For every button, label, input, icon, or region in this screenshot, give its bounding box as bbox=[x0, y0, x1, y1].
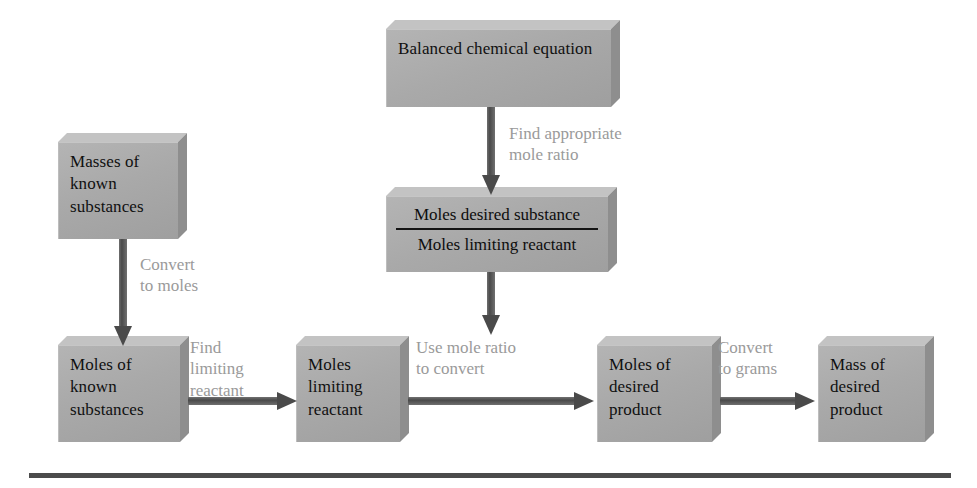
node-balanced-equation-label: Balanced chemical equation bbox=[386, 29, 611, 60]
box-bevel-right bbox=[178, 133, 187, 239]
mole-ratio-fraction: Moles desired substance Moles limiting r… bbox=[386, 196, 608, 256]
node-moles-known: Moles of known substances bbox=[58, 345, 180, 442]
node-masses-known-label: Masses of known substances bbox=[58, 142, 178, 218]
box-bevel-top bbox=[386, 20, 620, 29]
mole-ratio-denominator: Moles limiting reactant bbox=[386, 234, 608, 255]
connector-label-use-mole-ratio: Use mole ratio to convert bbox=[416, 337, 516, 380]
arrow-limiting-to-desired bbox=[408, 391, 595, 411]
mole-ratio-numerator: Moles desired substance bbox=[386, 204, 608, 228]
box-bevel-right bbox=[180, 336, 189, 442]
node-moles-desired-label: Moles of desired product bbox=[597, 345, 712, 421]
node-moles-limiting: Moles limiting reactant bbox=[296, 345, 400, 442]
box-bevel-right bbox=[608, 187, 617, 272]
box-bevel-top bbox=[597, 336, 721, 345]
node-balanced-equation: Balanced chemical equation bbox=[386, 29, 611, 107]
box-bevel-top bbox=[818, 336, 934, 345]
node-moles-known-label: Moles of known substances bbox=[58, 345, 180, 421]
node-moles-limiting-label: Moles limiting reactant bbox=[296, 345, 400, 421]
arrow-equation-to-ratio bbox=[481, 107, 501, 196]
flowchart-canvas: Balanced chemical equation Find appropri… bbox=[0, 0, 977, 488]
bottom-rule bbox=[29, 473, 951, 478]
box-bevel-top bbox=[58, 133, 187, 142]
arrow-desired-to-mass bbox=[720, 391, 816, 411]
node-moles-desired: Moles of desired product bbox=[597, 345, 712, 442]
box-bevel-right bbox=[400, 336, 409, 442]
box-bevel-right bbox=[611, 20, 620, 107]
box-bevel-top bbox=[296, 336, 409, 345]
arrow-masses-to-moles bbox=[113, 239, 133, 347]
connector-label-find-mole-ratio: Find appropriate mole ratio bbox=[509, 123, 622, 166]
arrow-ratio-to-chain bbox=[481, 272, 501, 336]
box-bevel-right bbox=[925, 336, 934, 442]
box-bevel-top bbox=[386, 187, 617, 196]
node-masses-known: Masses of known substances bbox=[58, 142, 178, 239]
fraction-bar bbox=[396, 228, 598, 230]
node-mass-desired: Mass of desired product bbox=[818, 345, 925, 442]
node-mole-ratio: Moles desired substance Moles limiting r… bbox=[386, 196, 608, 272]
connector-label-convert-to-grams: Convert to grams bbox=[718, 337, 777, 380]
node-mass-desired-label: Mass of desired product bbox=[818, 345, 925, 421]
connector-label-convert-to-moles: Convert to moles bbox=[140, 254, 198, 297]
connector-label-find-limiting: Find limiting reactant bbox=[190, 337, 244, 401]
